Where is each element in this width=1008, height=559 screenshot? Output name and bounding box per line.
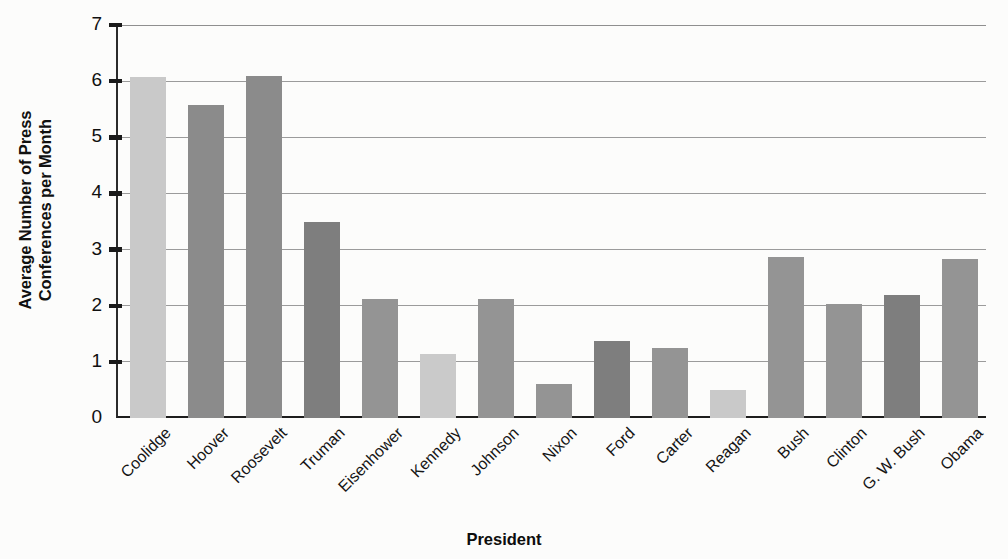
y-axis-title: Average Number of Press Conferences per … <box>0 0 70 420</box>
x-axis-tick-label: Coolidge <box>117 424 174 481</box>
y-axis-tick-label: 5 <box>62 125 102 147</box>
x-axis-tick-label: Johnson <box>467 424 523 480</box>
x-axis-title: President <box>0 530 1008 549</box>
bar-chart-figure: Average Number of Press Conferences per … <box>0 0 1008 559</box>
bar <box>884 295 920 418</box>
bar <box>304 222 340 418</box>
x-axis-tick-label: Truman <box>297 424 348 475</box>
bar-series <box>116 25 986 418</box>
bar <box>362 299 398 418</box>
y-axis-title-line-2: Conferences per Month <box>35 111 55 310</box>
y-axis-tick-label: 7 <box>62 13 102 35</box>
bar <box>420 354 456 418</box>
bar <box>130 77 166 418</box>
bar <box>536 384 572 418</box>
bar <box>478 299 514 418</box>
x-axis-tick-label: Reagan <box>702 424 754 476</box>
bar <box>594 341 630 418</box>
bar <box>246 76 282 418</box>
y-axis-tick-label: 6 <box>62 69 102 91</box>
bar <box>652 348 688 418</box>
x-axis-tick-label: Carter <box>653 424 697 468</box>
x-axis-tick-label: Bush <box>774 424 813 463</box>
y-axis-tick-label: 0 <box>62 406 102 428</box>
x-axis-tick-label: Nixon <box>539 424 581 466</box>
y-axis-tick-label: 4 <box>62 181 102 203</box>
y-axis-tick-label: 1 <box>62 350 102 372</box>
x-axis-tick-label: Clinton <box>823 424 871 472</box>
bar <box>768 257 804 418</box>
x-axis-tick-label: Obama <box>937 424 987 474</box>
bar <box>188 105 224 418</box>
bar <box>826 304 862 418</box>
y-axis-tick-label: 3 <box>62 238 102 260</box>
y-axis-title-line-1: Average Number of Press <box>15 111 35 310</box>
x-axis-tick-label: Kennedy <box>407 424 464 481</box>
bar <box>710 390 746 418</box>
bar <box>942 259 978 418</box>
y-axis-tick-label: 2 <box>62 294 102 316</box>
x-axis-tick-labels: CoolidgeHooverRooseveltTrumanEisenhowerK… <box>116 420 986 520</box>
x-axis-tick-label: Hoover <box>184 424 233 473</box>
x-axis-tick-label: Ford <box>603 424 639 460</box>
